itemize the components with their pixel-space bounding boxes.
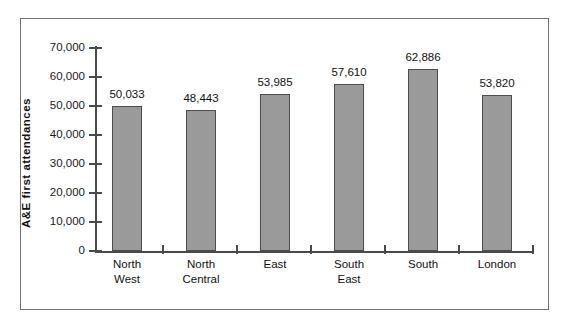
- x-category-label-london: London: [467, 257, 527, 272]
- y-tick-label-20000-wrap: 20,000: [33, 187, 85, 199]
- x-category-label-south-east-line2: East: [319, 272, 379, 287]
- bar-value-london: 53,820: [467, 77, 527, 89]
- bar-south: [408, 69, 438, 251]
- x-axis-line: [95, 251, 534, 253]
- x-category-label-south: South: [393, 257, 453, 272]
- y-tick-label-20000: 20,000: [33, 187, 85, 198]
- x-category-label-north-central-line1: North: [166, 257, 236, 272]
- bar-value-east: 53,985: [245, 76, 305, 88]
- bar-north-central: [186, 110, 216, 251]
- y-tick-label-0: 0: [33, 245, 85, 256]
- y-tick-60000: [89, 76, 102, 78]
- x-tick-1: [162, 245, 164, 254]
- x-tick-5: [458, 245, 460, 254]
- x-category-label-south-east: South East: [319, 257, 379, 287]
- x-category-label-north-central-line2: Central: [166, 272, 236, 287]
- x-category-label-south-east-line1: South: [319, 257, 379, 272]
- y-axis-title-text: A&E first attendances: [20, 58, 32, 268]
- bar-chart-plot-area: A&E first attendances 0 10,000 20,000 30…: [0, 0, 570, 328]
- bar-value-south: 62,886: [393, 51, 453, 63]
- x-category-label-north-west: North West: [97, 257, 157, 287]
- y-tick-label-30000-wrap: 30,000: [33, 158, 85, 170]
- y-tick-10000: [89, 221, 102, 223]
- x-category-label-london-line1: London: [467, 257, 527, 272]
- y-tick-label-50000-wrap: 50,000: [33, 100, 85, 112]
- x-category-label-north-west-line1: North: [97, 257, 157, 272]
- y-tick-label-30000: 30,000: [33, 158, 85, 169]
- x-category-label-east: East: [245, 257, 305, 272]
- x-tick-3: [310, 245, 312, 254]
- y-tick-50000: [89, 105, 102, 107]
- bar-value-south-east: 57,610: [319, 66, 379, 78]
- x-tick-6: [532, 245, 534, 254]
- y-tick-label-60000-wrap: 60,000: [33, 71, 85, 83]
- x-tick-4: [384, 245, 386, 254]
- y-tick-label-40000-wrap: 40,000: [33, 129, 85, 141]
- bar-north-west: [112, 106, 142, 251]
- bar-east: [260, 94, 290, 251]
- y-tick-30000: [89, 163, 102, 165]
- x-category-label-north-west-line2: West: [97, 272, 157, 287]
- chart-screenshot: A&E first attendances 0 10,000 20,000 30…: [0, 0, 570, 328]
- y-tick-label-70000-wrap: 70,000: [33, 42, 85, 54]
- y-tick-label-60000: 60,000: [33, 71, 85, 82]
- y-tick-40000: [89, 134, 102, 136]
- y-tick-20000: [89, 192, 102, 194]
- y-tick-label-0-wrap: 0: [33, 245, 85, 257]
- y-tick-label-10000-wrap: 10,000: [33, 216, 85, 228]
- bar-south-east: [334, 84, 364, 251]
- y-tick-label-10000: 10,000: [33, 216, 85, 227]
- y-tick-70000: [89, 47, 102, 49]
- y-tick-label-50000: 50,000: [33, 100, 85, 111]
- y-tick-label-70000: 70,000: [33, 42, 85, 53]
- bar-value-north-west: 50,033: [97, 88, 157, 100]
- y-tick-label-40000: 40,000: [33, 129, 85, 140]
- bar-value-north-central: 48,443: [171, 92, 231, 104]
- x-category-label-north-central: North Central: [166, 257, 236, 287]
- x-tick-2: [236, 245, 238, 254]
- x-category-label-east-line1: East: [245, 257, 305, 272]
- bar-london: [482, 95, 512, 251]
- x-category-label-south-line1: South: [393, 257, 453, 272]
